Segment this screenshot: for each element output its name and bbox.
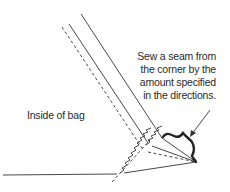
callout-line: Sew a seam from — [137, 50, 216, 63]
arrow-head-icon — [190, 130, 196, 137]
base-to-corner-line — [124, 162, 196, 173]
curly-brace-icon — [163, 133, 196, 162]
inner-edge-line — [69, 24, 148, 143]
callout-arrow-line — [192, 110, 210, 134]
inside-of-bag-label: Inside of bag — [27, 109, 85, 122]
lower-dashed-line — [112, 140, 150, 182]
zigzag-seam — [120, 128, 151, 173]
callout-line: in the directions. — [137, 89, 216, 102]
corner-line-2 — [152, 146, 196, 162]
sewing-diagram: Inside of bag Sew a seam from the corner… — [0, 0, 230, 192]
bottom-edge-line — [3, 174, 117, 175]
fold-dashed-line — [62, 27, 142, 148]
callout-text: Sew a seam from the corner by the amount… — [137, 50, 216, 102]
callout-line: amount specified — [137, 76, 216, 89]
callout-line: the corner by the — [137, 63, 216, 76]
